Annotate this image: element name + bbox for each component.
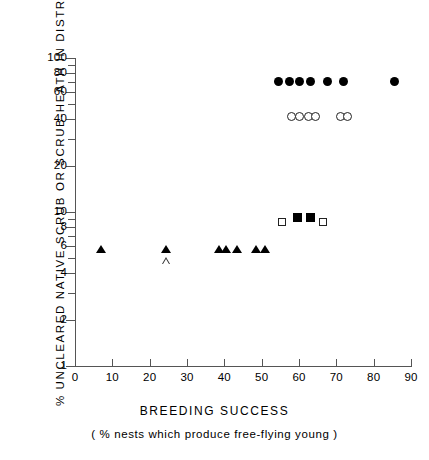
- data-point-open-square: [319, 218, 327, 226]
- y-tick-1: [66, 366, 75, 367]
- x-tick-20: [150, 359, 151, 367]
- y-minor-tick-30: [68, 139, 75, 140]
- x-tick-40: [224, 359, 225, 367]
- y-tick-label-2: 2: [11, 314, 67, 325]
- data-point-filled-circle: [285, 77, 294, 86]
- x-tick-label-40: 40: [209, 371, 239, 383]
- x-tick-30: [187, 359, 188, 367]
- data-point-filled-circle: [390, 77, 399, 86]
- y-minor-tick-70: [68, 82, 75, 83]
- y-minor-tick-9: [68, 219, 75, 220]
- x-tick-10: [112, 359, 113, 367]
- y-minor-tick-90: [68, 65, 75, 66]
- y-tick-label-20: 20: [11, 160, 67, 171]
- y-tick-100: [66, 58, 75, 59]
- y-tick-8: [66, 227, 75, 228]
- y-minor-tick-7: [68, 236, 75, 237]
- data-point-filled-circle: [306, 77, 315, 86]
- y-minor-tick-50: [68, 104, 75, 105]
- y-tick-4: [66, 273, 75, 274]
- x-tick-label-90: 90: [396, 371, 426, 383]
- data-point-filled-circle: [323, 77, 332, 86]
- x-tick-60: [299, 359, 300, 367]
- data-point-filled-triangle: [161, 245, 171, 253]
- x-tick-label-50: 50: [247, 371, 277, 383]
- data-point-open-triangle: [162, 257, 170, 264]
- y-tick-20: [66, 166, 75, 167]
- data-point-filled-square: [306, 213, 315, 222]
- x-tick-label-80: 80: [359, 371, 389, 383]
- data-point-filled-circle: [295, 77, 304, 86]
- y-tick-6: [66, 246, 75, 247]
- y-tick-label-8: 8: [11, 221, 67, 232]
- data-point-filled-triangle: [260, 245, 270, 253]
- y-tick-label-100: 100: [11, 52, 67, 63]
- y-tick-2: [66, 320, 75, 321]
- data-point-open-circle: [343, 112, 352, 121]
- y-tick-label-40: 40: [11, 113, 67, 124]
- x-tick-label-0: 0: [60, 371, 90, 383]
- data-point-filled-square: [293, 213, 302, 222]
- data-point-filled-triangle: [221, 245, 231, 253]
- x-tick-0: [75, 359, 76, 367]
- scatter-chart: % UNCLEARED NATIVE SCRUB OR SCRUB-HEATH …: [0, 0, 429, 460]
- x-tick-label-60: 60: [284, 371, 314, 383]
- y-tick-80: [66, 73, 75, 74]
- data-point-filled-triangle: [232, 245, 242, 253]
- x-tick-90: [411, 359, 412, 367]
- y-tick-60: [66, 92, 75, 93]
- x-tick-label-30: 30: [172, 371, 202, 383]
- x-tick-70: [336, 359, 337, 367]
- y-tick-10: [66, 212, 75, 213]
- y-tick-label-6: 6: [11, 240, 67, 251]
- data-point-open-circle: [311, 112, 320, 121]
- x-tick-80: [374, 359, 375, 367]
- x-tick-label-10: 10: [97, 371, 127, 383]
- data-point-filled-circle: [274, 77, 283, 86]
- x-tick-label-70: 70: [321, 371, 351, 383]
- y-tick-40: [66, 119, 75, 120]
- x-tick-label-20: 20: [135, 371, 165, 383]
- data-point-open-circle: [295, 112, 304, 121]
- y-minor-tick-3: [68, 293, 75, 294]
- data-point-filled-circle: [339, 77, 348, 86]
- y-tick-label-4: 4: [11, 267, 67, 278]
- x-tick-50: [262, 359, 263, 367]
- x-axis-title: BREEDING SUCCESS: [0, 404, 429, 418]
- y-minor-tick-5: [68, 258, 75, 259]
- data-point-filled-triangle: [96, 245, 106, 253]
- y-tick-label-60: 60: [11, 86, 67, 97]
- x-axis-subtitle: ( % nests which produce free-flying youn…: [0, 428, 429, 440]
- y-tick-label-80: 80: [11, 67, 67, 78]
- y-tick-label-10: 10: [11, 206, 67, 217]
- data-point-open-square: [278, 218, 286, 226]
- y-tick-label-1: 1: [11, 360, 67, 371]
- y-axis-line: [75, 58, 76, 366]
- x-axis-line: [75, 366, 411, 367]
